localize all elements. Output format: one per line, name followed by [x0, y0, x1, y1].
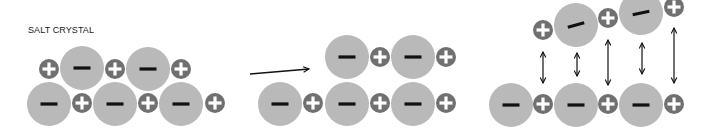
- minus-icon: [339, 102, 356, 105]
- cation-sodium: [303, 93, 323, 113]
- anion-chloride: [549, 0, 603, 52]
- minus-icon: [503, 103, 520, 106]
- minus-icon: [633, 103, 650, 106]
- cation-sodium: [598, 8, 618, 28]
- anion-chloride: [325, 82, 369, 126]
- minus-icon: [339, 55, 356, 58]
- transition-arrow-icon: [250, 69, 309, 74]
- minus-icon: [173, 102, 190, 105]
- cation-sodium: [664, 0, 684, 17]
- minus-icon: [405, 102, 422, 105]
- minus-icon: [74, 66, 91, 69]
- anion-chloride: [325, 35, 369, 79]
- anion-chloride: [615, 0, 667, 39]
- cation-sodium: [664, 94, 684, 114]
- minus-icon: [107, 102, 124, 105]
- cation-sodium: [105, 59, 125, 79]
- anion-chloride: [391, 82, 435, 126]
- anion-chloride: [27, 82, 71, 126]
- cation-sodium: [436, 47, 456, 67]
- cation-sodium: [138, 93, 158, 113]
- arrows-layer: [250, 28, 674, 85]
- minus-icon: [140, 67, 157, 70]
- cation-sodium: [39, 59, 59, 79]
- minus-icon: [405, 55, 422, 58]
- cation-sodium: [205, 93, 225, 113]
- anion-chloride: [619, 83, 663, 127]
- diagram-canvas: [0, 0, 712, 134]
- cation-sodium: [533, 94, 553, 114]
- anion-chloride: [93, 82, 137, 126]
- anion-chloride: [258, 82, 302, 126]
- ions-layer: [27, 0, 684, 127]
- anion-chloride: [159, 82, 203, 126]
- panel-repulsion: [489, 0, 684, 127]
- cation-sodium: [370, 93, 390, 113]
- anion-chloride: [126, 47, 170, 91]
- cation-sodium: [598, 94, 618, 114]
- cation-sodium: [171, 59, 191, 79]
- cation-sodium: [72, 93, 92, 113]
- anion-chloride: [489, 83, 533, 127]
- minus-icon: [568, 103, 585, 106]
- anion-chloride: [391, 35, 435, 79]
- minus-icon: [41, 102, 58, 105]
- panel-crystal: [27, 46, 225, 126]
- cation-sodium: [533, 20, 553, 40]
- cation-sodium: [370, 47, 390, 67]
- panel-shifted-layer: [258, 35, 456, 126]
- cation-sodium: [436, 93, 456, 113]
- anion-chloride: [554, 83, 598, 127]
- salt-crystal-diagram: SALT CRYSTAL: [0, 0, 712, 134]
- minus-icon: [272, 102, 289, 105]
- anion-chloride: [60, 46, 104, 90]
